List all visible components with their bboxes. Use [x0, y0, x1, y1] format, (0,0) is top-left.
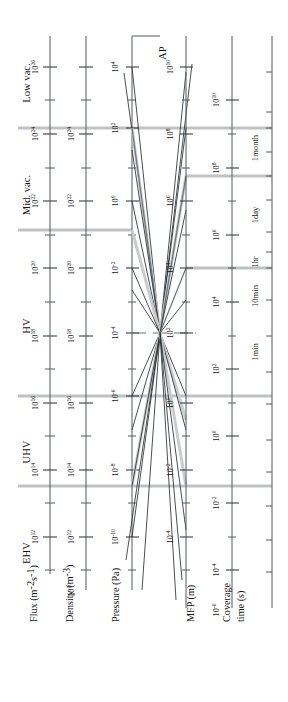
pressure-exp-m4: -4: [110, 326, 116, 331]
line-left-k: [126, 333, 160, 560]
region-label-ehv: EHV: [21, 542, 32, 564]
svg-text:104: 104: [211, 296, 221, 307]
nomogram-svg: 1026 1024 1022 1020 1018 1016 1014 1012 …: [0, 0, 288, 702]
flux-exp-12: 12: [30, 530, 36, 536]
pressure-tick-labels: 104 102 100 10-2 10-4 10-6 10-8 10-10: [110, 61, 120, 545]
time-marker-axis: 1month 1day 1hr 10min 1min: [250, 36, 272, 608]
mfp-exp-2: 2: [165, 327, 171, 330]
flux-exp-16: 16: [30, 396, 36, 402]
svg-text:10-6: 10-6: [211, 603, 221, 616]
svg-text:1014: 1014: [30, 463, 40, 477]
line-left-bold-1e-1: [132, 230, 160, 333]
svg-text:100: 100: [211, 430, 221, 441]
density-exp-14: 14: [66, 463, 72, 469]
region-label-uhv: UHV: [21, 440, 32, 463]
time-ticks: [266, 72, 272, 572]
time-label-1min: 1min: [250, 342, 260, 360]
svg-text:1022: 1022: [66, 194, 76, 208]
svg-text:106: 106: [211, 229, 221, 240]
region-label-mid-vac: Mid. vac.: [21, 175, 32, 215]
axis-coverage-time: 1010 108 106 104 102 100 10-2 10-4 10-6 …: [211, 36, 247, 622]
nomogram-lines-right: [160, 64, 192, 600]
coverage-exp-0: 0: [211, 430, 217, 433]
flux-axis-title: Flux (m-2s-1): [25, 565, 40, 622]
svg-text:1018: 1018: [66, 329, 76, 343]
coverage-exp-6: 6: [211, 229, 217, 232]
svg-text:1012: 1012: [66, 530, 76, 544]
mfp-axis-title: MFP (m): [185, 585, 197, 622]
svg-text:10-2: 10-2: [110, 261, 120, 274]
density-exp-22: 22: [66, 194, 72, 200]
coverage-exp-8: 8: [211, 162, 217, 165]
pressure-exp-0: 0: [110, 195, 116, 198]
mfp-exp-6: 6: [165, 195, 171, 198]
line-left-i: [132, 333, 160, 486]
mfp-exp-4: 4: [165, 262, 171, 265]
svg-text:1010: 1010: [165, 60, 175, 74]
pressure-exp-4: 4: [110, 61, 116, 64]
svg-text:104: 104: [110, 61, 120, 72]
density-exp-12: 12: [66, 530, 72, 536]
pressure-exp-m8: -8: [110, 463, 116, 468]
coverage-exp-2: 2: [211, 363, 217, 366]
pressure-exp-m6: -6: [110, 389, 116, 394]
pressure-exp-m2: -2: [110, 261, 116, 266]
svg-text:10-4: 10-4: [110, 326, 120, 339]
coverage-axis-title-line1: Coverage: [221, 582, 232, 622]
svg-text:104: 104: [165, 262, 175, 273]
density-exp-20: 20: [66, 261, 72, 267]
svg-text:10-2: 10-2: [165, 463, 175, 476]
svg-text:10-2: 10-2: [211, 496, 221, 509]
time-label-10min: 10min: [250, 284, 260, 307]
nomogram-lines-left: [124, 67, 160, 590]
svg-text:10-8: 10-8: [110, 463, 120, 476]
time-label-1month: 1month: [250, 134, 260, 161]
svg-text:10-4: 10-4: [165, 530, 175, 543]
svg-text:1014: 1014: [66, 463, 76, 477]
svg-text:1010: 1010: [211, 93, 221, 107]
coverage-exp-4: 4: [211, 296, 217, 299]
coverage-axis-title-line2: time (s): [235, 591, 247, 622]
svg-text:100: 100: [110, 195, 120, 206]
density-axis-title: Density (m-3): [61, 565, 76, 622]
svg-text:100: 100: [165, 397, 175, 408]
mfp-exp-10: 10: [165, 60, 171, 66]
mfp-exp-m2: -2: [165, 463, 171, 468]
flux-tick-labels: 1026 1024 1022 1020 1018 1016 1014 1012: [30, 60, 40, 544]
line-left-mid-1e2: [132, 128, 160, 333]
svg-text:1020: 1020: [66, 261, 76, 275]
region-label-hv: HV: [21, 318, 32, 334]
mfp-exp-m4: -4: [165, 530, 171, 535]
svg-text:102: 102: [110, 122, 120, 133]
mfp-exp-8: 8: [165, 128, 171, 131]
region-label-low-vac: Low vac.: [21, 63, 32, 102]
pressure-exp-m10: -10: [110, 529, 116, 537]
svg-text:1020: 1020: [30, 261, 40, 275]
atmospheric-pressure-marker: AP: [132, 36, 168, 60]
ap-label: AP: [157, 46, 168, 60]
svg-text:10-6: 10-6: [110, 389, 120, 402]
svg-text:1016: 1016: [66, 396, 76, 410]
svg-text:102: 102: [211, 363, 221, 374]
pressure-exp-2: 2: [110, 122, 116, 125]
density-exp-16: 16: [66, 396, 72, 402]
coverage-exp-10: 10: [211, 93, 217, 99]
coverage-exp-m6: -6: [211, 603, 217, 608]
line-left-l: [142, 333, 160, 590]
time-label-1day: 1day: [250, 206, 260, 223]
svg-text:1012: 1012: [30, 530, 40, 544]
pressure-axis-title: Pressure (Pa): [110, 568, 122, 622]
density-exp-24: 24: [66, 127, 72, 133]
mfp-exp-0: 0: [165, 397, 171, 400]
density-tick-labels: 1024 1022 1020 1018 1016 1014 1012 1010: [66, 127, 76, 597]
svg-text:1016: 1016: [30, 396, 40, 410]
time-label-1hr: 1hr: [250, 256, 260, 268]
svg-text:108: 108: [165, 128, 175, 139]
coverage-exp-m4: -4: [211, 563, 217, 568]
vacuum-nomogram-figure: 1026 1024 1022 1020 1018 1016 1014 1012 …: [0, 0, 288, 702]
line-right-j: [160, 333, 186, 530]
svg-text:10-10: 10-10: [110, 529, 120, 545]
density-exp-18: 18: [66, 329, 72, 335]
svg-text:108: 108: [211, 162, 221, 173]
svg-text:10-4: 10-4: [211, 563, 221, 576]
